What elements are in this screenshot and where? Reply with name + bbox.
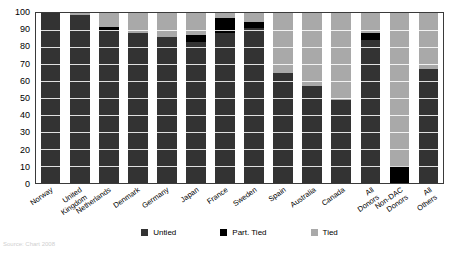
- bar-segment[interactable]: [157, 37, 177, 183]
- bar-slot: [298, 13, 327, 183]
- y-axis-tick-90: 90: [20, 24, 30, 34]
- bar-segment[interactable]: [215, 18, 235, 33]
- plot-area: [35, 12, 444, 184]
- bar-segment[interactable]: [244, 13, 264, 22]
- bar-slot: [356, 13, 385, 183]
- bar-segment[interactable]: [128, 13, 148, 33]
- y-axis-tick-30: 30: [20, 127, 30, 137]
- legend-swatch-icon: [220, 229, 227, 236]
- bar-segment[interactable]: [157, 13, 177, 37]
- bar-stack[interactable]: [361, 13, 381, 183]
- bar-slot: [181, 13, 210, 183]
- legend-item[interactable]: Tied: [311, 228, 338, 237]
- chart-legend: UntiedPart. TiedTied: [35, 226, 444, 238]
- bar-slot: [152, 13, 181, 183]
- bar-segment[interactable]: [302, 13, 322, 86]
- bar-segment[interactable]: [215, 33, 235, 183]
- bar-segment[interactable]: [302, 86, 322, 183]
- legend-item[interactable]: Part. Tied: [220, 228, 266, 237]
- bar-slot: [65, 13, 94, 183]
- bar-slot: [94, 13, 123, 183]
- bar-segment[interactable]: [361, 13, 381, 33]
- bar-stack[interactable]: [419, 13, 439, 183]
- bar-segment[interactable]: [70, 15, 90, 183]
- x-axis-slot: France: [210, 185, 239, 231]
- bar-stack[interactable]: [215, 13, 235, 183]
- y-axis-tick-50: 50: [20, 93, 30, 103]
- bar-stack[interactable]: [70, 13, 90, 183]
- x-axis-slot: Canada: [327, 185, 356, 231]
- y-axis-tick-100: 100: [15, 7, 30, 17]
- legend-label: Untied: [153, 228, 176, 237]
- x-axis: NorwayUnitedKingdomNetherlandsDenmarkGer…: [35, 185, 444, 231]
- bar-stack[interactable]: [244, 13, 264, 183]
- bar-segment[interactable]: [419, 13, 439, 69]
- y-axis-tick-70: 70: [20, 59, 30, 69]
- bar-slot: [240, 13, 269, 183]
- bar-stack[interactable]: [273, 13, 293, 183]
- footer-note: Source: Chart 2008: [3, 241, 55, 247]
- bar-segment[interactable]: [331, 100, 351, 183]
- bar-stack[interactable]: [128, 13, 148, 183]
- x-axis-label: AllOthers: [411, 186, 439, 213]
- bar-segment[interactable]: [419, 69, 439, 183]
- bar-stack[interactable]: [186, 13, 206, 183]
- legend-label: Tied: [323, 228, 338, 237]
- stacked-bar-chart: 0102030405060708090100 NorwayUnitedKingd…: [0, 0, 450, 253]
- bar-segment[interactable]: [41, 13, 61, 183]
- legend-item[interactable]: Untied: [141, 228, 176, 237]
- legend-label: Part. Tied: [232, 228, 266, 237]
- bar-slot: [123, 13, 152, 183]
- bar-segment[interactable]: [99, 30, 119, 183]
- y-axis-tick-80: 80: [20, 41, 30, 51]
- y-axis-tick-0: 0: [25, 179, 30, 189]
- bar-segment[interactable]: [390, 166, 410, 183]
- bar-stack[interactable]: [157, 13, 177, 183]
- bar-slot: [269, 13, 298, 183]
- bar-segment[interactable]: [361, 40, 381, 183]
- bar-segment[interactable]: [186, 35, 206, 42]
- bar-slot: [36, 13, 65, 183]
- y-axis: 0102030405060708090100: [0, 7, 33, 189]
- x-axis-slot: AllOthers: [415, 185, 444, 231]
- bar-segment[interactable]: [390, 13, 410, 166]
- x-axis-label: Norway: [29, 186, 55, 208]
- x-axis-label: Spain: [268, 186, 289, 204]
- x-axis-label: Japan: [179, 186, 201, 205]
- legend-swatch-icon: [141, 229, 148, 236]
- bar-segment[interactable]: [331, 13, 351, 100]
- bar-segment[interactable]: [244, 22, 264, 29]
- bar-segment[interactable]: [99, 13, 119, 27]
- x-axis-slot: Australia: [298, 185, 327, 231]
- x-axis-slot: Japan: [181, 185, 210, 231]
- bar-stack[interactable]: [331, 13, 351, 183]
- bar-stack[interactable]: [41, 13, 61, 183]
- legend-swatch-icon: [311, 229, 318, 236]
- bar-segment[interactable]: [186, 42, 206, 183]
- bar-slot: [385, 13, 414, 183]
- y-axis-tick-20: 20: [20, 145, 30, 155]
- x-axis-slot: Sweden: [240, 185, 269, 231]
- x-axis-slot: Non-DACDonors: [386, 185, 415, 231]
- bar-segment[interactable]: [244, 28, 264, 183]
- bar-segment[interactable]: [273, 13, 293, 73]
- bar-stack[interactable]: [390, 13, 410, 183]
- y-axis-tick-60: 60: [20, 76, 30, 86]
- bar-series-container: [36, 13, 443, 183]
- bar-segment[interactable]: [128, 33, 148, 183]
- bar-stack[interactable]: [302, 13, 322, 183]
- bar-segment[interactable]: [186, 13, 206, 35]
- x-axis-slot: Germany: [152, 185, 181, 231]
- bar-segment[interactable]: [273, 73, 293, 184]
- bar-segment[interactable]: [361, 33, 381, 40]
- x-axis-label: France: [206, 186, 230, 206]
- bar-slot: [210, 13, 239, 183]
- bar-slot: [327, 13, 356, 183]
- y-axis-tick-10: 10: [20, 162, 30, 172]
- y-axis-tick-40: 40: [20, 110, 30, 120]
- bar-stack[interactable]: [99, 13, 119, 183]
- bar-slot: [414, 13, 443, 183]
